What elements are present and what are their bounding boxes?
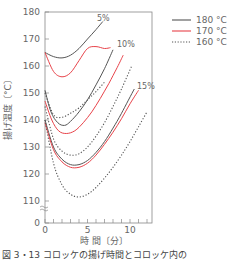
y-tick-label: 170 xyxy=(23,34,40,44)
legend-label-180: 180 °C xyxy=(196,15,227,25)
x-axis-ticks: 0510 xyxy=(42,219,147,235)
x-tick-label: 10 xyxy=(124,225,136,235)
figure-caption: 図 3・13 コロッケの揚げ時間とコロッケ内の xyxy=(2,248,187,261)
y-tick-label: 180 xyxy=(23,7,40,17)
legend-label-170: 170 °C xyxy=(196,26,227,36)
curve-5pct-160 xyxy=(45,82,105,117)
y-tick-label: 140 xyxy=(23,115,40,125)
axis-break-icon xyxy=(40,206,48,211)
y-tick-label: 120 xyxy=(23,169,40,179)
curve-15pct-180 xyxy=(45,89,134,165)
y-tick-label: 160 xyxy=(23,61,40,71)
annotation-5pct: 5% xyxy=(97,14,110,23)
y-tick-label: 110 xyxy=(23,196,40,206)
legend-label-160: 160 °C xyxy=(196,37,227,47)
curve-5pct-170 xyxy=(45,47,111,77)
curve-5pct-180 xyxy=(45,22,103,58)
x-tick-label: 5 xyxy=(85,225,91,235)
x-axis-title: 時 間〔分〕 xyxy=(80,236,128,246)
legend: 180 °C 170 °C 160 °C xyxy=(172,15,227,47)
annotation-10pct: 10% xyxy=(117,40,135,49)
x-tick-label: 0 xyxy=(42,225,48,235)
y-tick-label: 0 xyxy=(34,218,40,228)
annotation-15pct: 15% xyxy=(137,82,155,91)
plot-frame xyxy=(45,12,152,223)
y-tick-label: 150 xyxy=(23,88,40,98)
curve-10pct-160 xyxy=(45,66,132,155)
y-axis-title: 揚げ温度〔°C〕 xyxy=(2,75,13,140)
y-tick-label: 130 xyxy=(23,142,40,152)
